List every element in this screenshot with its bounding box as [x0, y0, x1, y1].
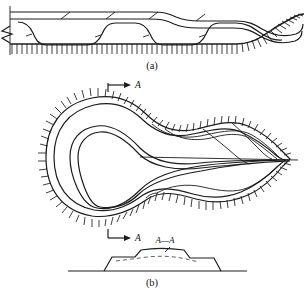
panel-b-map-view: A [38, 80, 298, 289]
thrust-ramp-4 [191, 23, 236, 45]
section-arrow-head-top [124, 82, 131, 88]
figure-root: (a) A [0, 0, 307, 296]
section-line-marker-top: A [108, 80, 141, 92]
break-symbol-icon [2, 26, 12, 43]
section-label-top: A [134, 80, 141, 90]
thrust-ramp-2 [87, 23, 135, 45]
section-line-marker-bottom: A [108, 229, 141, 243]
right-lobe-trace-upper-2 [165, 129, 277, 159]
panel-b-caption: (b) [146, 277, 159, 289]
thrust-hachures-right-limb [242, 14, 303, 52]
axial-hinge-line [140, 157, 298, 160]
panel-a-caption: (a) [146, 60, 158, 72]
panel-a-cross-section: (a) [2, 6, 304, 72]
profile-cross-section [68, 247, 247, 271]
thrust-hachures-ramps [26, 34, 205, 37]
profile-leader-tick [165, 247, 170, 252]
nappe-inner-fold-trace-1 [70, 126, 288, 209]
section-label-bottom: A [134, 233, 141, 243]
nappe-second-outline [54, 103, 286, 210]
geology-figure-svg: (a) A [0, 0, 307, 296]
section-arrow-head-bottom [124, 235, 131, 241]
thrust-ramp-1 [18, 22, 87, 45]
profile-outline [104, 249, 221, 272]
profile-label: A—A [155, 235, 176, 245]
